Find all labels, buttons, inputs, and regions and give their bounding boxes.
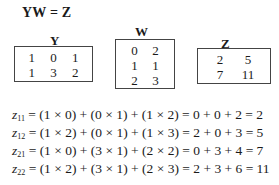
equation-z11: z11 = (1 × 0) + (0 × 1) + (1 × 2) = 0 + … xyxy=(12,108,270,126)
equation-z12: z12 = (1 × 2) + (0 × 1) + (1 × 3) = 2 + … xyxy=(12,126,270,144)
matrix-cell: 7 xyxy=(213,67,227,82)
matrix-cell: 2 xyxy=(213,52,227,67)
matrix-row: 7 11 xyxy=(206,67,262,82)
matrix-cell: 2 xyxy=(68,65,82,80)
matrix-row: 0 2 xyxy=(124,43,166,58)
matrix-cell: 1 xyxy=(25,65,39,80)
matrix-cell: 0 xyxy=(46,50,60,65)
matrix-y: 1 0 1 1 3 2 xyxy=(14,46,93,82)
matrix-cell: 3 xyxy=(149,73,163,88)
matrix-cell: 2 xyxy=(149,43,163,58)
matrix-cell: 1 xyxy=(149,58,163,73)
matrix-cell: 0 xyxy=(128,43,142,58)
matrix-cell: 1 xyxy=(68,50,82,65)
matrix-cell: 1 xyxy=(25,50,39,65)
equation-z21: z21 = (1 × 0) + (3 × 1) + (2 × 2) = 0 + … xyxy=(12,144,270,162)
matrix-row: 2 5 xyxy=(206,52,262,67)
matrix-cell: 5 xyxy=(241,52,255,67)
matrix-row: 1 1 xyxy=(124,58,166,73)
matrix-cell: 3 xyxy=(46,65,60,80)
matrix-cell: 11 xyxy=(241,67,255,82)
equation-z22: z22 = (1 × 2) + (3 × 1) + (2 × 3) = 2 + … xyxy=(12,162,270,180)
matrix-w-label: W xyxy=(135,24,148,40)
matrix-row: 1 0 1 xyxy=(21,50,86,65)
matrix-z: 2 5 7 11 xyxy=(197,48,271,84)
matrix-cell: 1 xyxy=(128,58,142,73)
matrix-row: 1 3 2 xyxy=(21,65,86,80)
matrix-row: 2 3 xyxy=(124,73,166,88)
matrix-w: 0 2 1 1 2 3 xyxy=(115,39,175,89)
equation-list: z11 = (1 × 0) + (0 × 1) + (1 × 2) = 0 + … xyxy=(12,108,270,180)
matrix-cell: 2 xyxy=(128,73,142,88)
equation-title: YW = Z xyxy=(22,5,71,21)
